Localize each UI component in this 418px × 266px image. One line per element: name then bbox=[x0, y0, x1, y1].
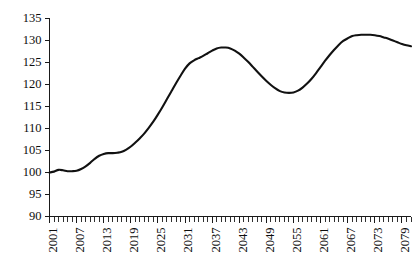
x-axis-tick-label: 2013 bbox=[100, 228, 114, 253]
y-axis-tick-label: 100 bbox=[23, 165, 42, 179]
line-chart-figure: 9095100105110115120125130135200120072013… bbox=[0, 0, 418, 266]
x-axis-tick-label: 2049 bbox=[263, 228, 277, 253]
x-axis-tick-label: 2073 bbox=[371, 228, 385, 253]
y-axis-tick-label: 90 bbox=[29, 209, 42, 223]
x-axis-tick-label: 2001 bbox=[46, 228, 60, 253]
x-axis-tick-label: 2067 bbox=[344, 228, 358, 253]
y-axis-tick-label: 95 bbox=[29, 187, 42, 201]
y-axis-tick-label: 115 bbox=[23, 99, 41, 113]
y-axis-tick-label: 110 bbox=[23, 121, 41, 135]
y-axis-tick-label: 120 bbox=[23, 77, 42, 91]
y-axis-tick-label: 130 bbox=[23, 33, 42, 47]
x-axis-tick-label: 2037 bbox=[209, 228, 223, 253]
x-axis-tick-label: 2043 bbox=[236, 228, 250, 253]
x-axis-tick-label: 2019 bbox=[127, 228, 141, 253]
y-axis-tick-label: 135 bbox=[23, 11, 42, 25]
y-axis-tick-label: 105 bbox=[23, 143, 42, 157]
x-axis-tick-label: 2061 bbox=[317, 228, 331, 253]
data-series-line bbox=[50, 35, 412, 173]
x-axis-tick-label: 2055 bbox=[290, 228, 304, 253]
chart-canvas: 9095100105110115120125130135200120072013… bbox=[0, 0, 418, 266]
x-axis-tick-label: 2025 bbox=[154, 228, 168, 253]
y-axis-tick-label: 125 bbox=[23, 55, 42, 69]
x-axis-tick-label: 2007 bbox=[73, 228, 87, 253]
x-axis-tick-label: 2079 bbox=[398, 228, 412, 253]
x-axis-tick-label: 2031 bbox=[181, 228, 195, 253]
